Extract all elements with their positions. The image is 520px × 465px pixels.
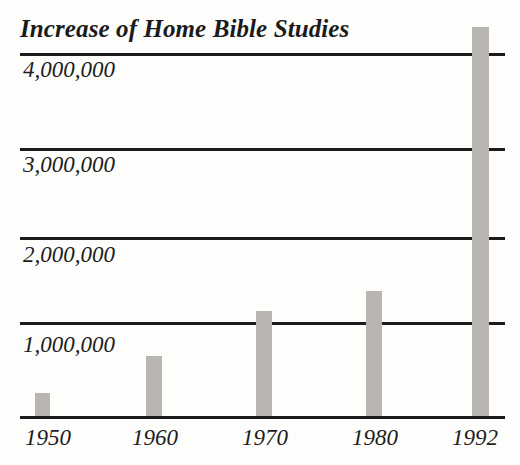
gridline-2000000 bbox=[20, 237, 505, 240]
x-axis-label-1980: 1980 bbox=[340, 424, 410, 452]
x-axis-line bbox=[20, 416, 505, 419]
chart-title: Increase of Home Bible Studies bbox=[20, 14, 349, 44]
plot-area: 4,000,000 3,000,000 2,000,000 1,000,000 … bbox=[0, 0, 520, 465]
gridline-3000000 bbox=[20, 148, 505, 151]
y-axis-label-1000000: 1,000,000 bbox=[23, 332, 115, 358]
bar-chart-figure: 4,000,000 3,000,000 2,000,000 1,000,000 … bbox=[0, 0, 520, 465]
bar-1950 bbox=[35, 393, 50, 417]
x-axis-label-1960: 1960 bbox=[120, 424, 190, 452]
bar-1980 bbox=[366, 291, 382, 417]
x-axis-label-1950: 1950 bbox=[13, 424, 83, 452]
bar-1960 bbox=[146, 356, 162, 417]
y-axis-label-3000000: 3,000,000 bbox=[23, 152, 115, 178]
bar-1992 bbox=[472, 27, 489, 417]
y-axis-label-4000000: 4,000,000 bbox=[23, 57, 115, 83]
x-axis-label-1970: 1970 bbox=[230, 424, 300, 452]
y-axis-label-2000000: 2,000,000 bbox=[23, 242, 115, 268]
gridline-4000000 bbox=[20, 53, 505, 56]
bar-1970 bbox=[256, 311, 272, 417]
x-axis-label-1992: 1992 bbox=[440, 424, 510, 452]
